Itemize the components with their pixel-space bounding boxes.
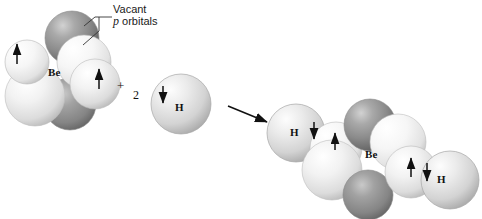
product-be-label: Be [365,148,378,160]
hybrid-orbital-upper-left [5,40,49,84]
hybrid-orbital-right [70,59,120,109]
callout-line-1: Vacant [113,3,146,15]
reactant-be-label: Be [48,66,61,78]
hydrogen-coefficient: 2 [133,89,139,102]
vacant-p-orbitals-callout: Vacant p orbitals [113,3,158,29]
reaction-arrow [228,106,267,122]
plus-sign: + [117,79,124,94]
product-h-right-label: H [437,173,446,185]
product-hydrogen-right-sphere [421,151,479,209]
figure-canvas [0,0,482,219]
product-h-left-label: H [290,126,299,138]
reactant-h-label: H [175,101,184,113]
hybridization-diagram-svg [0,0,482,219]
reactant-beryllium-group [5,11,120,130]
callout-line-2: orbitals [119,15,158,27]
